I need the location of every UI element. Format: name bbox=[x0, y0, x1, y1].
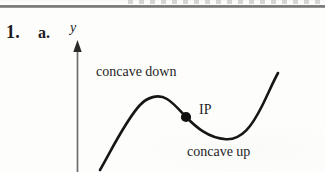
y-axis-arrowhead-icon bbox=[73, 40, 81, 52]
annotation-concave-up: concave up bbox=[187, 144, 250, 160]
scanned-worksheet-page: 1. a. y concave down IP concave up bbox=[0, 0, 325, 172]
inflection-point-marker bbox=[181, 112, 191, 122]
annotation-inflection-point: IP bbox=[199, 102, 211, 118]
y-axis bbox=[73, 40, 81, 172]
graph-sketch bbox=[0, 0, 325, 172]
annotation-concave-down: concave down bbox=[96, 64, 176, 80]
